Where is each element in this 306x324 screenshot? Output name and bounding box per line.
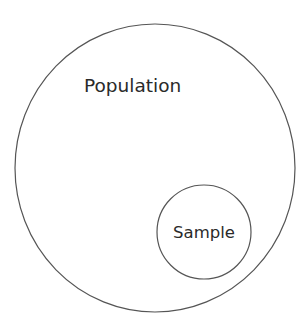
population-sample-diagram: Population Sample [0, 0, 306, 324]
population-circle [15, 24, 295, 312]
sample-label: Sample [173, 223, 235, 242]
population-label: Population [84, 75, 181, 96]
